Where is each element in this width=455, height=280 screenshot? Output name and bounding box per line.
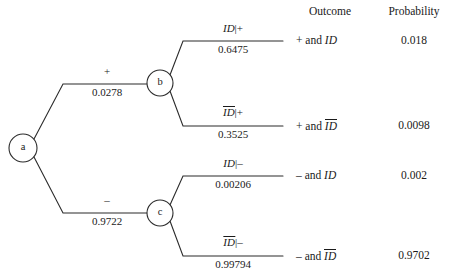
outcome-row-3-event: ID bbox=[324, 169, 336, 181]
edge-event-id-pos: ID bbox=[223, 22, 235, 34]
outcome-row-2: + and ID bbox=[296, 119, 337, 132]
edge-probability-idbar-pos: 0.3525 bbox=[218, 128, 248, 140]
outcome-row-2-event: ID bbox=[325, 119, 337, 132]
edge-condition-id-pos: + bbox=[237, 22, 243, 34]
edge-event-idbar-pos: ID bbox=[223, 106, 235, 119]
outcome-row-4-prefix: – and bbox=[296, 250, 321, 262]
outcome-column-header: Outcome bbox=[309, 5, 351, 17]
probability-row-2: 0.0098 bbox=[398, 119, 430, 131]
node-b-label: b bbox=[157, 76, 162, 87]
edge-label-a-b-probability: 0.0278 bbox=[92, 86, 122, 98]
outcome-row-1-event: ID bbox=[325, 34, 337, 46]
edge-event-id-neg: ID bbox=[223, 157, 235, 169]
node-a-label: a bbox=[21, 141, 26, 152]
outcome-row-1: + and ID bbox=[296, 34, 337, 46]
edge-label-b-id-pos: ID|+ bbox=[223, 22, 243, 34]
probability-row-1: 0.018 bbox=[401, 34, 427, 46]
edge-condition-idbar-neg: – bbox=[237, 236, 243, 248]
probability-row-4: 0.9702 bbox=[398, 249, 430, 261]
edge-label-a-b-sign: + bbox=[104, 65, 110, 77]
outcome-row-4-event: ID bbox=[324, 249, 336, 262]
edge-label-a-c-sign: – bbox=[104, 194, 110, 206]
outcome-row-4: – and ID bbox=[296, 249, 336, 262]
node-c-label: c bbox=[158, 206, 163, 217]
probability-tree-diagram: a b c Outcome Probability + 0.0278 – 0.9… bbox=[0, 0, 455, 280]
edge-probability-idbar-neg: 0.99794 bbox=[215, 258, 251, 270]
edge-label-c-idbar-neg: ID|– bbox=[223, 236, 242, 249]
outcome-row-3-prefix: – and bbox=[296, 169, 321, 181]
edge-condition-idbar-pos: + bbox=[237, 106, 243, 118]
edge-probability-id-neg: 0.00206 bbox=[215, 178, 251, 190]
edge-condition-id-neg: – bbox=[237, 157, 243, 169]
edge-label-b-idbar-pos: ID|+ bbox=[223, 106, 243, 119]
edge-a-to-c bbox=[34, 157, 147, 213]
outcome-row-3: – and ID bbox=[296, 169, 336, 181]
outcome-row-2-prefix: + and bbox=[296, 120, 322, 132]
probability-column-header: Probability bbox=[388, 5, 439, 17]
edge-event-idbar-neg: ID bbox=[223, 236, 235, 249]
edge-probability-id-pos: 0.6475 bbox=[218, 43, 248, 55]
edge-label-c-id-neg: ID|– bbox=[223, 157, 242, 169]
probability-row-3: 0.002 bbox=[401, 169, 427, 181]
outcome-row-1-prefix: + and bbox=[296, 34, 322, 46]
edge-label-a-c-probability: 0.9722 bbox=[92, 215, 122, 227]
edge-a-to-b bbox=[34, 84, 147, 139]
